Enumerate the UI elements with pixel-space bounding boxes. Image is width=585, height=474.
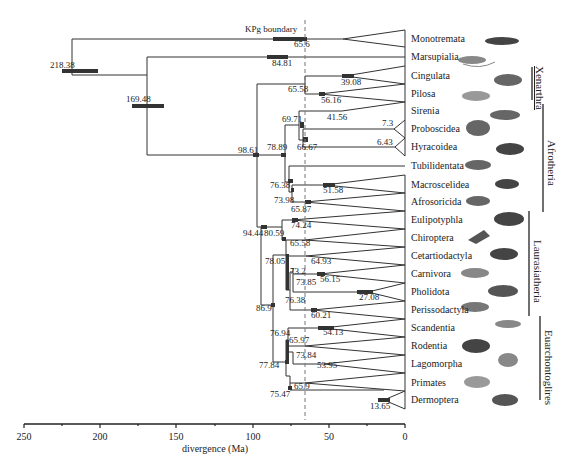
opossum-icon (458, 56, 486, 64)
taxon-pholidota: Pholidota (411, 286, 449, 298)
tick-150: 150 (169, 431, 184, 442)
hyena-icon (461, 268, 489, 278)
label-86: 86.9 (256, 303, 272, 313)
taxon-primates: Primates (411, 377, 446, 389)
tick-250: 250 (17, 431, 32, 442)
label-78-05: 78.05 (265, 256, 286, 266)
taxon-afrosoricida: Afrosoricida (411, 196, 462, 208)
hedgehog-icon (494, 212, 524, 226)
taxon-chiroptera: Chiroptera (411, 232, 454, 244)
label-56-15: 56.15 (320, 274, 341, 284)
label-73-85: 73.85 (296, 277, 317, 287)
animal-silhouettes (458, 37, 524, 406)
taxon-sirenia: Sirenia (411, 105, 439, 117)
tick-0: 0 (403, 431, 408, 442)
label-66: 66.67 (297, 142, 318, 152)
label-74: 74.24 (291, 220, 312, 230)
taxon-pilosa: Pilosa (411, 88, 435, 100)
label-54: 54.13 (323, 327, 344, 337)
label-6: 6.43 (377, 137, 393, 147)
aardvark-icon (465, 160, 491, 170)
label-65-58a: 65.58 (288, 84, 309, 94)
label-75: 75.47 (270, 389, 291, 399)
taxon-monotremata: Monotremata (411, 33, 465, 45)
label-78-89: 78.89 (267, 142, 288, 152)
label-65-9: 65.9 (294, 381, 310, 391)
taxon-lagomorpha: Lagomorpha (411, 358, 462, 370)
taxon-rodentia: Rodentia (411, 340, 447, 352)
label-65-87: 65.87 (291, 204, 312, 214)
colugo-icon (492, 394, 518, 406)
tick-100: 100 (246, 431, 261, 442)
taxon-tubilidentata: Tubilidentata (411, 160, 464, 172)
label-73-84: 73.84 (296, 350, 317, 360)
label-218: 218.38 (50, 60, 75, 70)
taxon-dermoptera: Dermoptera (411, 394, 459, 406)
tick-50: 50 (324, 431, 334, 442)
tick-200: 200 (93, 431, 108, 442)
clade-euarchontoglires: Euarchontoglires (543, 330, 555, 405)
label-56-16: 56.16 (321, 95, 342, 105)
hippo-icon (490, 248, 518, 260)
taxon-hyracoidea: Hyracoidea (411, 141, 457, 153)
label-69: 69.71 (282, 114, 302, 124)
rabbit-icon (498, 353, 518, 367)
label-65-58b: 65.58 (290, 238, 311, 248)
label-98: 98.61 (238, 145, 258, 155)
elephant-icon (466, 120, 490, 136)
phylogenetic-chart: KPg boundary 218.38 169.48 65.6 84.81 39… (0, 0, 585, 474)
taxon-perissodactyla: Perissodactyla (411, 304, 469, 316)
treeshrew-icon (495, 320, 521, 328)
taxon-scandentia: Scandentia (411, 322, 455, 334)
clade-laurasiatheria: Laurasiatheria (532, 240, 544, 303)
clade-afrotheria: Afrotheria (546, 140, 558, 186)
node-age-labels: 218.38 169.48 65.6 84.81 39.08 65.58 56.… (50, 39, 394, 411)
label-76-38b: 76.38 (285, 295, 306, 305)
label-41: 41.56 (327, 112, 348, 122)
taxon-cingulata: Cingulata (411, 70, 450, 82)
monkey-icon (464, 376, 490, 388)
label-7: 7.3 (382, 118, 394, 128)
label-65-97: 65.97 (289, 335, 310, 345)
label-77: 77.84 (259, 360, 280, 370)
taxon-marsupialia: Marsupialia (411, 51, 459, 63)
label-39: 39.08 (341, 77, 362, 87)
taxon-proboscidea: Proboscidea (411, 123, 460, 135)
taxon-carnivora: Carnivora (411, 268, 451, 280)
platypus-icon (485, 37, 519, 45)
label-84: 84.81 (272, 58, 292, 68)
x-axis: 250 200 150 100 50 0 divergence (Ma) (17, 424, 408, 455)
porcupine-icon (462, 339, 490, 353)
label-13: 13.65 (370, 401, 391, 411)
label-53: 53.95 (317, 360, 338, 370)
label-64: 64.93 (311, 256, 332, 266)
clade-xenarthra: Xenarthra (534, 66, 546, 110)
elephant-shrew-icon (495, 179, 519, 189)
clade-bars (529, 67, 543, 400)
label-73-2: 73.2 (290, 266, 306, 276)
pangolin-icon (488, 285, 518, 297)
label-51: 51.58 (323, 185, 344, 195)
ci-bar-169 (132, 104, 164, 108)
label-94: 94.44 (243, 228, 264, 238)
x-axis-label: divergence (Ma) (182, 443, 248, 455)
hyrax-icon (496, 143, 524, 155)
taxon-eulipotyphla: Eulipotyphla (411, 214, 463, 226)
taxon-cetartiodactyla: Cetartiodactyla (411, 250, 472, 262)
tenrec-icon (466, 196, 490, 206)
label-27: 27.08 (359, 292, 380, 302)
label-76-94: 76.94 (270, 328, 291, 338)
label-60: 60.21 (311, 310, 331, 320)
tree-svg: KPg boundary 218.38 169.48 65.6 84.81 39… (0, 0, 585, 474)
label-80: 80.59 (264, 228, 285, 238)
taxon-macroscelidea: Macroscelidea (411, 179, 469, 191)
anteater-icon (462, 91, 490, 101)
label-65-6: 65.6 (294, 39, 310, 49)
label-169: 169.48 (126, 94, 151, 104)
kpg-boundary-label: KPg boundary (245, 24, 298, 34)
bat-icon (468, 230, 490, 244)
label-76-38a: 76.38 (270, 180, 291, 190)
manatee-icon (490, 110, 520, 120)
armadillo-icon (494, 74, 522, 86)
